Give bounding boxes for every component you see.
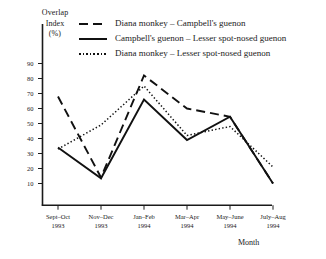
- y-tick-label: 40: [18, 135, 34, 142]
- series-line-solid: [58, 100, 273, 184]
- y-tick-label: 90: [18, 60, 34, 67]
- x-tick-label: July–Aug1994: [246, 213, 300, 230]
- y-tick-label: 80: [18, 75, 34, 82]
- y-tick-label: 30: [18, 150, 34, 157]
- y-tick-label: 70: [18, 90, 34, 97]
- x-axis-label: Month: [238, 238, 259, 247]
- y-tick-label: 50: [18, 120, 34, 127]
- series-line-dashed: [58, 76, 273, 184]
- series-line-dotted: [58, 86, 273, 167]
- y-tick-label: 60: [18, 105, 34, 112]
- y-tick-label: 10: [18, 180, 34, 187]
- data-series-layer: [58, 76, 273, 184]
- chart-figure: Overlap Index (%) Diana monkey – Campbel…: [0, 0, 326, 259]
- y-tick-label: 20: [18, 165, 34, 172]
